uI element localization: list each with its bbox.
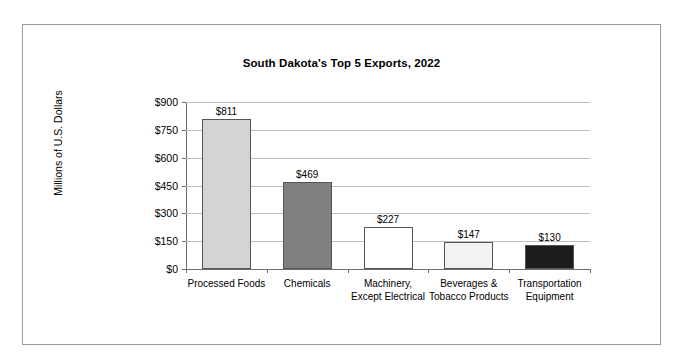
chart-figure: South Dakota's Top 5 Exports, 2022 Milli… xyxy=(22,24,661,345)
y-tick-label: $900 xyxy=(155,96,178,108)
plot-area: $0$150$300$450$600$750$900 $811$469$227$… xyxy=(186,102,590,269)
x-tick-mark xyxy=(590,269,591,273)
y-tick-label: $300 xyxy=(155,207,178,219)
y-tick-label: $150 xyxy=(155,235,178,247)
bar-value-label: $130 xyxy=(538,232,560,243)
x-tick-mark xyxy=(428,269,429,273)
bar: $811 xyxy=(202,119,251,269)
category-label: Chemicals xyxy=(267,278,348,291)
category-label: Machinery, Except Electrical xyxy=(348,278,429,303)
y-tick-label: $750 xyxy=(155,124,178,136)
y-tick-mark xyxy=(182,130,186,131)
bar-value-label: $227 xyxy=(377,214,399,225)
y-tick-mark xyxy=(182,102,186,103)
x-tick-mark xyxy=(186,269,187,273)
category-label: Processed Foods xyxy=(186,278,267,291)
y-tick-mark xyxy=(182,213,186,214)
category-label: Transportation Equipment xyxy=(509,278,590,303)
bar-value-label: $147 xyxy=(458,229,480,240)
y-tick-mark xyxy=(182,186,186,187)
bar: $130 xyxy=(525,245,574,269)
bar: $147 xyxy=(444,242,493,269)
bar-value-label: $469 xyxy=(296,169,318,180)
x-tick-mark xyxy=(348,269,349,273)
y-tick-mark xyxy=(182,241,186,242)
chart-title: South Dakota's Top 5 Exports, 2022 xyxy=(23,57,660,69)
y-tick-label: $450 xyxy=(155,180,178,192)
y-tick-mark xyxy=(182,158,186,159)
bar: $469 xyxy=(283,182,332,269)
y-axis-label: Millions of U.S. Dollars xyxy=(52,63,64,223)
y-tick-label: $600 xyxy=(155,152,178,164)
bar: $227 xyxy=(364,227,413,269)
x-tick-mark xyxy=(509,269,510,273)
x-tick-mark xyxy=(267,269,268,273)
y-tick-label: $0 xyxy=(166,263,178,275)
gridline xyxy=(186,269,590,270)
bar-value-label: $811 xyxy=(216,106,238,117)
gridline xyxy=(186,102,590,103)
category-label: Beverages & Tobacco Products xyxy=(428,278,509,303)
